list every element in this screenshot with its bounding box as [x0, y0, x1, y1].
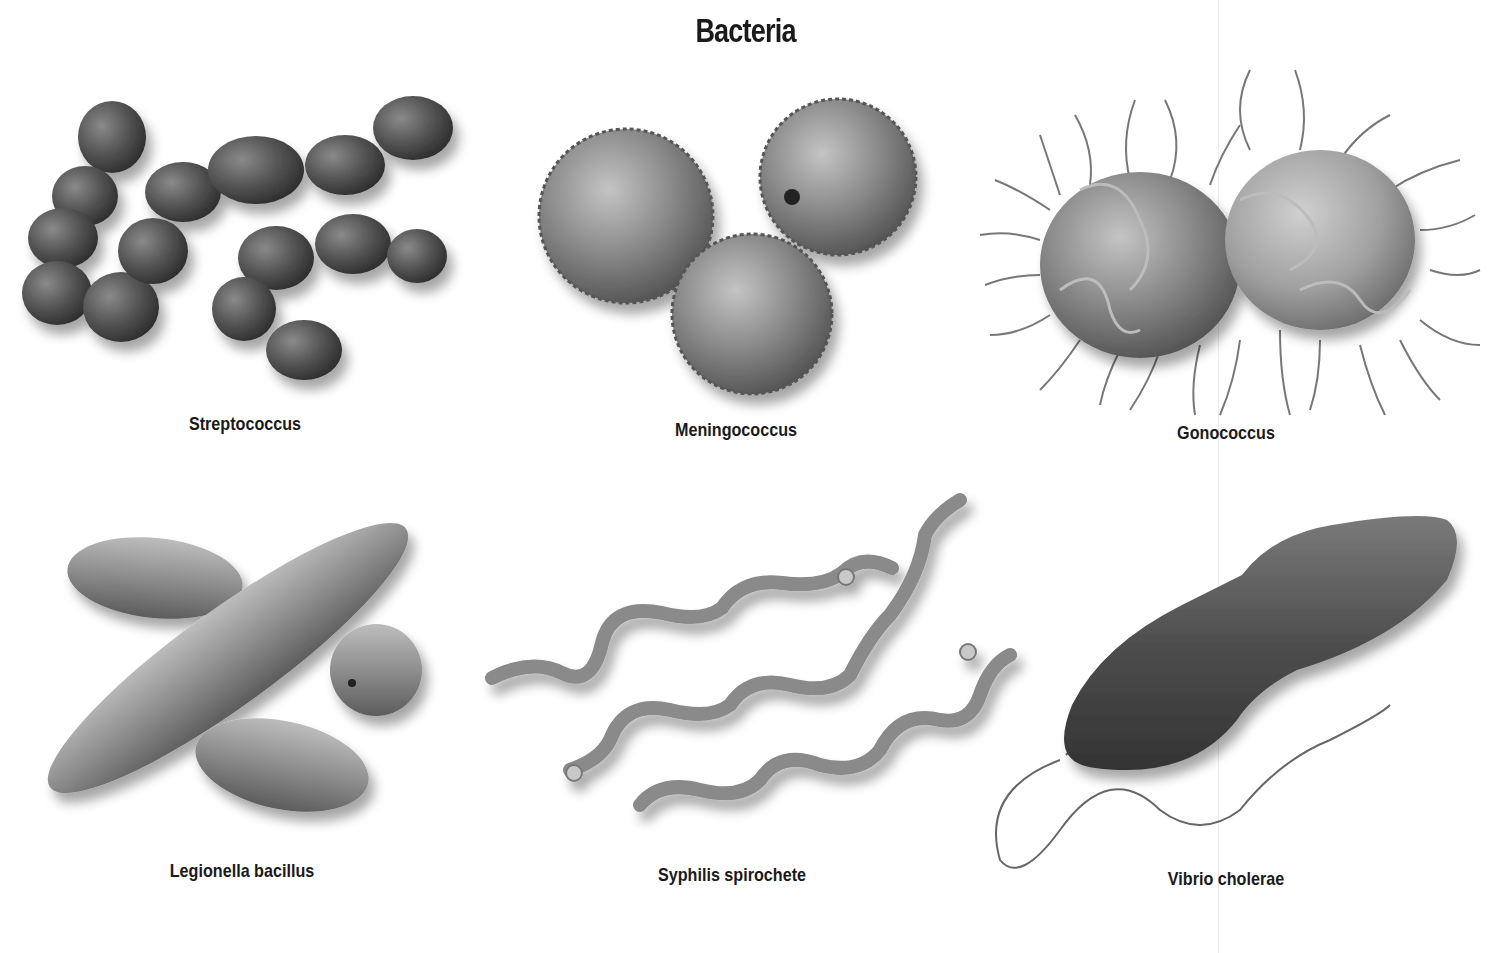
streptococcus-illustration [22, 96, 453, 380]
label-meningococcus: Meningococcus [675, 419, 797, 441]
legionella-illustration [22, 490, 434, 826]
label-streptococcus: Streptococcus [189, 413, 301, 435]
meningococcus-illustration [539, 99, 916, 394]
gonococcus-illustration [980, 70, 1480, 415]
label-legionella-bacillus: Legionella bacillus [170, 860, 315, 882]
bacteria-illustrations [0, 0, 1491, 953]
label-gonococcus: Gonococcus [1177, 422, 1275, 444]
label-syphilis-spirochete: Syphilis spirochete [658, 864, 806, 886]
vibrio-cholerae-illustration [996, 516, 1457, 868]
label-vibrio-cholerae: Vibrio cholerae [1168, 868, 1284, 890]
syphilis-spirochete-illustration [492, 500, 1010, 805]
